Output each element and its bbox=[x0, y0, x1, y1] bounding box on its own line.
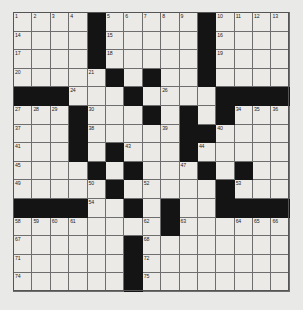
grid-cell[interactable] bbox=[69, 50, 87, 69]
grid-cell[interactable] bbox=[142, 124, 160, 143]
grid-cell[interactable] bbox=[50, 254, 68, 273]
grid-cell[interactable] bbox=[234, 254, 252, 273]
grid-cell[interactable] bbox=[124, 50, 142, 69]
grid-cell[interactable] bbox=[161, 180, 179, 199]
grid-cell[interactable] bbox=[253, 31, 271, 50]
grid-cell[interactable]: 50 bbox=[87, 180, 105, 199]
grid-cell[interactable] bbox=[234, 50, 252, 69]
grid-cell[interactable] bbox=[253, 143, 271, 162]
grid-cell[interactable]: 53 bbox=[234, 180, 252, 199]
grid-cell[interactable] bbox=[50, 236, 68, 255]
grid-cell[interactable]: 39 bbox=[161, 124, 179, 143]
grid-cell[interactable]: 68 bbox=[142, 236, 160, 255]
grid-cell[interactable]: 45 bbox=[14, 161, 32, 180]
grid-cell[interactable] bbox=[253, 124, 271, 143]
grid-cell[interactable]: 38 bbox=[87, 124, 105, 143]
grid-cell[interactable]: 17 bbox=[14, 50, 32, 69]
grid-cell[interactable] bbox=[124, 180, 142, 199]
grid-cell[interactable] bbox=[253, 50, 271, 69]
grid-cell[interactable] bbox=[179, 198, 197, 217]
grid-cell[interactable]: 63 bbox=[179, 217, 197, 236]
grid-cell[interactable]: 1 bbox=[14, 13, 32, 32]
grid-cell[interactable] bbox=[216, 143, 234, 162]
grid-cell[interactable] bbox=[142, 198, 160, 217]
grid-cell[interactable]: 24 bbox=[69, 87, 87, 106]
grid-cell[interactable]: 64 bbox=[234, 217, 252, 236]
grid-cell[interactable] bbox=[105, 273, 123, 292]
grid-cell[interactable] bbox=[197, 87, 215, 106]
grid-cell[interactable]: 9 bbox=[179, 13, 197, 32]
grid-cell[interactable] bbox=[32, 31, 50, 50]
grid-cell[interactable]: 18 bbox=[105, 50, 123, 69]
grid-cell[interactable]: 44 bbox=[197, 143, 215, 162]
grid-cell[interactable] bbox=[50, 273, 68, 292]
grid-cell[interactable]: 36 bbox=[271, 105, 289, 124]
grid-cell[interactable] bbox=[179, 31, 197, 50]
grid-cell[interactable]: 34 bbox=[234, 105, 252, 124]
grid-cell[interactable]: 6 bbox=[124, 13, 142, 32]
grid-cell[interactable] bbox=[32, 143, 50, 162]
grid-cell[interactable] bbox=[32, 236, 50, 255]
grid-cell[interactable]: 60 bbox=[50, 217, 68, 236]
grid-cell[interactable] bbox=[179, 87, 197, 106]
grid-cell[interactable] bbox=[161, 273, 179, 292]
grid-cell[interactable]: 2 bbox=[32, 13, 50, 32]
grid-cell[interactable]: 67 bbox=[14, 236, 32, 255]
grid-cell[interactable] bbox=[179, 50, 197, 69]
grid-cell[interactable]: 13 bbox=[271, 13, 289, 32]
grid-cell[interactable] bbox=[69, 254, 87, 273]
grid-cell[interactable] bbox=[197, 105, 215, 124]
grid-cell[interactable]: 54 bbox=[87, 198, 105, 217]
grid-cell[interactable] bbox=[161, 31, 179, 50]
grid-cell[interactable] bbox=[271, 68, 289, 87]
grid-cell[interactable]: 65 bbox=[253, 217, 271, 236]
grid-cell[interactable] bbox=[253, 161, 271, 180]
grid-cell[interactable]: 61 bbox=[69, 217, 87, 236]
grid-cell[interactable]: 16 bbox=[216, 31, 234, 50]
grid-cell[interactable] bbox=[179, 273, 197, 292]
grid-cell[interactable] bbox=[271, 50, 289, 69]
grid-cell[interactable] bbox=[234, 31, 252, 50]
grid-cell[interactable]: 62 bbox=[142, 217, 160, 236]
grid-cell[interactable] bbox=[124, 31, 142, 50]
grid-cell[interactable] bbox=[69, 180, 87, 199]
grid-cell[interactable] bbox=[32, 254, 50, 273]
grid-cell[interactable] bbox=[216, 217, 234, 236]
grid-cell[interactable] bbox=[142, 50, 160, 69]
grid-cell[interactable] bbox=[124, 105, 142, 124]
grid-cell[interactable] bbox=[142, 161, 160, 180]
grid-cell[interactable] bbox=[253, 273, 271, 292]
grid-cell[interactable] bbox=[216, 161, 234, 180]
grid-cell[interactable] bbox=[105, 198, 123, 217]
grid-cell[interactable]: 52 bbox=[142, 180, 160, 199]
grid-cell[interactable] bbox=[50, 161, 68, 180]
grid-cell[interactable] bbox=[50, 124, 68, 143]
grid-cell[interactable] bbox=[179, 254, 197, 273]
grid-cell[interactable] bbox=[32, 273, 50, 292]
grid-cell[interactable] bbox=[32, 50, 50, 69]
grid-cell[interactable]: 27 bbox=[14, 105, 32, 124]
grid-cell[interactable]: 4 bbox=[69, 13, 87, 32]
grid-cell[interactable] bbox=[105, 105, 123, 124]
grid-cell[interactable]: 3 bbox=[50, 13, 68, 32]
grid-cell[interactable]: 10 bbox=[216, 13, 234, 32]
grid-cell[interactable]: 5 bbox=[105, 13, 123, 32]
grid-cell[interactable] bbox=[87, 236, 105, 255]
grid-cell[interactable] bbox=[234, 68, 252, 87]
grid-cell[interactable] bbox=[253, 180, 271, 199]
grid-cell[interactable] bbox=[124, 217, 142, 236]
grid-cell[interactable] bbox=[105, 161, 123, 180]
grid-cell[interactable] bbox=[142, 143, 160, 162]
grid-cell[interactable] bbox=[197, 236, 215, 255]
grid-cell[interactable] bbox=[253, 236, 271, 255]
grid-cell[interactable] bbox=[161, 105, 179, 124]
grid-cell[interactable] bbox=[32, 161, 50, 180]
grid-cell[interactable] bbox=[161, 161, 179, 180]
grid-cell[interactable] bbox=[32, 68, 50, 87]
grid-cell[interactable] bbox=[105, 124, 123, 143]
grid-cell[interactable] bbox=[32, 124, 50, 143]
grid-cell[interactable] bbox=[197, 254, 215, 273]
grid-cell[interactable]: 28 bbox=[32, 105, 50, 124]
grid-cell[interactable] bbox=[124, 124, 142, 143]
grid-cell[interactable] bbox=[105, 217, 123, 236]
